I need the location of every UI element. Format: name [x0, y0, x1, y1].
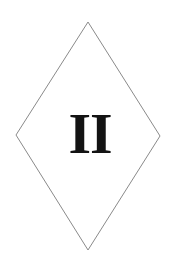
- roman-numeral-two-glyph: II: [0, 96, 180, 172]
- diamond-symbol-card: II: [0, 0, 180, 264]
